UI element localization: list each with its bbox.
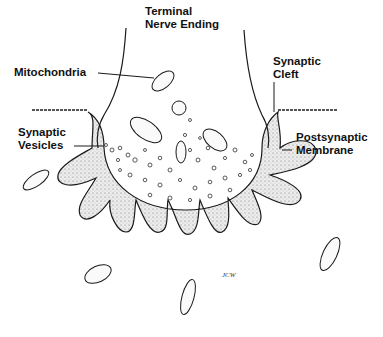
label-postsynaptic-membrane: Postsynaptic Membrane xyxy=(296,131,368,157)
leader-mitochondria xyxy=(98,73,154,78)
synapse-diagram: Terminal Nerve Ending Mitochondria Synap… xyxy=(0,0,383,337)
label-mitochondria: Mitochondria xyxy=(14,66,86,79)
synapse-illustration xyxy=(0,0,383,337)
artist-signature: JCW xyxy=(222,271,236,279)
postsynaptic-membrane xyxy=(58,112,316,234)
label-terminal: Terminal Nerve Ending xyxy=(145,5,219,31)
label-synaptic-vesicles: Synaptic Vesicles xyxy=(18,126,66,152)
label-synaptic-cleft: Synaptic Cleft xyxy=(273,55,321,81)
